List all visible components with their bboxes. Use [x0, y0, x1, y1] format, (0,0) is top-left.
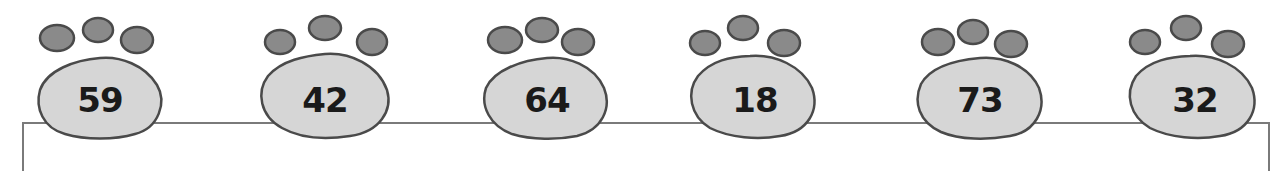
paw-icon [680, 10, 830, 145]
paw-icon [905, 10, 1055, 145]
paw-print-6: 32 [1120, 10, 1270, 145]
paw-number: 73 [905, 80, 1055, 120]
paw-print-1: 59 [25, 10, 175, 145]
paw-icon [472, 10, 622, 145]
paw-number: 42 [250, 80, 400, 120]
paw-print-5: 73 [905, 10, 1055, 145]
paw-icon [25, 10, 175, 145]
paw-number: 59 [25, 80, 175, 120]
paw-print-4: 18 [680, 10, 830, 145]
paw-number: 32 [1120, 80, 1270, 120]
paw-number: 64 [472, 80, 622, 120]
paw-icon [250, 10, 400, 145]
answer-box [22, 122, 1270, 171]
paw-print-2: 42 [250, 10, 400, 145]
paw-print-3: 64 [472, 10, 622, 145]
paw-number: 18 [680, 80, 830, 120]
paw-icon [1120, 10, 1270, 145]
